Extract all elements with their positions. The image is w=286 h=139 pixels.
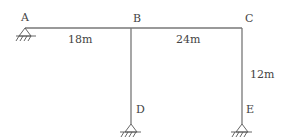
node-label-c: C — [245, 12, 253, 25]
node-label-d: D — [136, 103, 145, 116]
dimension-ab: 18m — [68, 33, 93, 46]
pin-support-icon-a — [16, 28, 36, 41]
dimension-ce: 12m — [250, 68, 275, 81]
node-label-e: E — [246, 103, 254, 116]
node-label-a: A — [20, 11, 30, 24]
node-label-b: B — [133, 12, 141, 25]
pin-support-icon-d — [120, 124, 141, 137]
dimension-bc: 24m — [176, 33, 201, 46]
pin-support-icon-e — [231, 124, 252, 137]
frame-diagram: A B C D E 18m 24m 12m — [0, 0, 286, 139]
